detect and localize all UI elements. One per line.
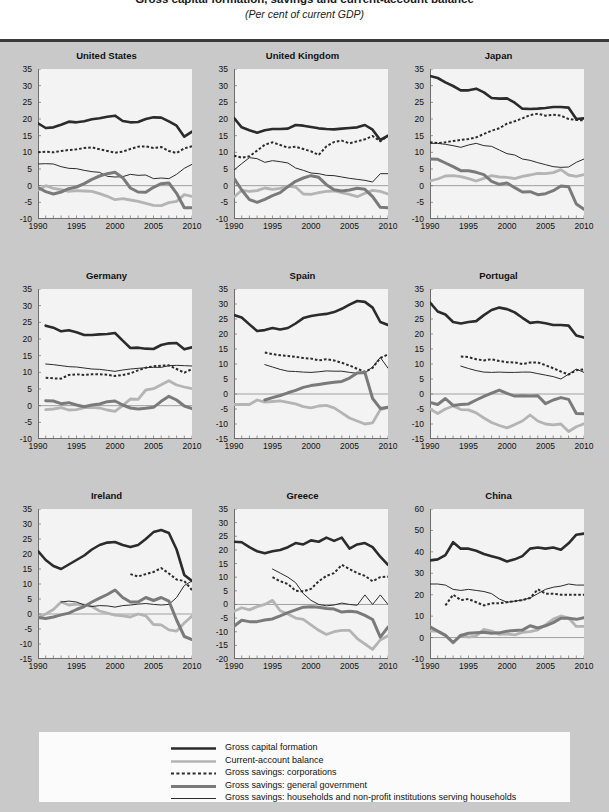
y-axis-labels: -15-10-505101520253035 — [400, 289, 427, 439]
y-tick-label: 10 — [23, 147, 32, 157]
x-tick-label: 1990 — [225, 661, 244, 671]
series-line — [38, 116, 192, 137]
y-tick-label: 30 — [415, 81, 424, 91]
y-tick-label: 5 — [223, 586, 228, 596]
x-tick-label: 2010 — [379, 221, 398, 231]
x-tick-label: 2010 — [575, 441, 594, 451]
panel-title: Japan — [400, 50, 597, 61]
y-tick-label: 15 — [23, 564, 32, 574]
legend-label: Gross savings: corporations — [225, 766, 337, 779]
y-tick-label: 25 — [219, 531, 228, 541]
series-line — [430, 584, 584, 602]
y-axis-labels: -15-10-505101520253035 — [204, 289, 231, 439]
y-tick-label: 20 — [23, 334, 32, 344]
legend-label: Gross capital formation — [225, 741, 318, 754]
y-tick-label: 10 — [219, 572, 228, 582]
x-tick-label: 1990 — [29, 221, 48, 231]
x-tick-label: 2000 — [498, 441, 517, 451]
y-tick-label: 10 — [415, 611, 424, 621]
x-tick-label: 2005 — [144, 221, 163, 231]
y-tick-label: 15 — [219, 559, 228, 569]
legend-label: Current-account balance — [225, 754, 324, 767]
x-tick-label: 2010 — [575, 221, 594, 231]
y-tick-label: 30 — [23, 519, 32, 529]
y-tick-label: 30 — [415, 299, 424, 309]
legend-swatch-icon — [170, 779, 217, 792]
x-axis-labels: 19901995200020052010 — [38, 441, 192, 455]
y-tick-label: 25 — [219, 97, 228, 107]
panel-row: United States-10-50510152025303519901995… — [8, 48, 601, 268]
y-tick-label: 25 — [415, 97, 424, 107]
series-line — [430, 303, 584, 338]
y-tick-label: 20 — [415, 329, 424, 339]
chart-panel-china: China-1001020304050601990199520002005201… — [400, 488, 597, 708]
y-tick-label: 15 — [23, 131, 32, 141]
chart-panel-spain: Spain-15-10-5051015202530351990199520002… — [204, 268, 401, 488]
x-tick-label: 2005 — [536, 441, 555, 451]
chart-panel-ireland: Ireland-15-10-50510152025303519901995200… — [8, 488, 205, 708]
y-axis-labels: -10-505101520253035 — [8, 69, 35, 219]
y-tick-label: -10 — [216, 419, 228, 429]
y-tick-label: -10 — [20, 639, 32, 649]
x-tick-label: 2000 — [498, 221, 517, 231]
y-tick-label: 35 — [219, 284, 228, 294]
x-tick-label: 1990 — [29, 441, 48, 451]
series-line — [38, 602, 192, 631]
x-tick-label: 2000 — [498, 661, 517, 671]
series-line — [430, 159, 584, 209]
x-tick-label: 1995 — [263, 661, 282, 671]
y-tick-label: -5 — [24, 197, 32, 207]
y-tick-label: 0 — [419, 633, 424, 643]
panel-grid: United States-10-50510152025303519901995… — [8, 48, 601, 708]
y-tick-label: 10 — [23, 367, 32, 377]
y-tick-label: 35 — [415, 284, 424, 294]
x-axis-labels: 19901995200020052010 — [430, 441, 584, 455]
series-line — [234, 158, 388, 182]
y-axis-labels: -20-15-10-505101520253035 — [204, 509, 231, 659]
y-tick-label: 35 — [219, 504, 228, 514]
x-tick-label: 2005 — [340, 221, 359, 231]
y-tick-label: 15 — [415, 344, 424, 354]
chart-panel-portugal: Portugal-15-10-5051015202530351990199520… — [400, 268, 597, 488]
x-tick-label: 2010 — [379, 441, 398, 451]
x-tick-label: 2005 — [536, 221, 555, 231]
y-tick-label: 35 — [23, 504, 32, 514]
x-tick-label: 1995 — [459, 221, 478, 231]
series-line — [46, 326, 192, 350]
y-tick-label: 0 — [27, 609, 32, 619]
plot-svg — [430, 289, 584, 439]
x-tick-label: 1995 — [263, 221, 282, 231]
figure-title: Gross capital formation, savings and cur… — [0, 0, 609, 5]
y-tick-label: 10 — [219, 147, 228, 157]
x-tick-label: 1995 — [67, 221, 86, 231]
y-tick-label: 0 — [419, 181, 424, 191]
x-tick-label: 2005 — [340, 441, 359, 451]
chart-panel-japan: Japan-10-5051015202530351990199520002005… — [400, 48, 597, 268]
y-axis-labels: -100102030405060 — [400, 509, 427, 659]
figure-page: Gross capital formation, savings and cur… — [0, 0, 609, 812]
y-tick-label: 15 — [415, 131, 424, 141]
x-tick-label: 2000 — [106, 221, 125, 231]
series-line — [234, 400, 388, 424]
plot-svg — [430, 69, 584, 219]
x-axis-labels: 19901995200020052010 — [234, 661, 388, 675]
y-tick-label: -5 — [416, 404, 424, 414]
plot-svg — [38, 509, 192, 659]
y-tick-label: 5 — [27, 164, 32, 174]
y-tick-label: 25 — [23, 97, 32, 107]
x-tick-label: 1990 — [421, 661, 440, 671]
y-tick-label: 40 — [415, 547, 424, 557]
figure-subtitle: (Per cent of current GDP) — [0, 8, 609, 20]
series-line — [430, 114, 584, 143]
x-axis-labels: 19901995200020052010 — [234, 441, 388, 455]
x-axis-labels: 19901995200020052010 — [430, 661, 584, 675]
y-tick-label: 20 — [23, 549, 32, 559]
y-axis-labels: -10-505101520253035 — [204, 69, 231, 219]
series-line — [234, 301, 388, 331]
panel-row: Germany-10-50510152025303519901995200020… — [8, 268, 601, 488]
y-tick-label: 20 — [415, 114, 424, 124]
y-tick-label: 60 — [415, 504, 424, 514]
y-tick-label: 25 — [219, 314, 228, 324]
chart-panel-united-kingdom: United Kingdom-10-5051015202530351990199… — [204, 48, 401, 268]
series-line — [234, 118, 388, 140]
